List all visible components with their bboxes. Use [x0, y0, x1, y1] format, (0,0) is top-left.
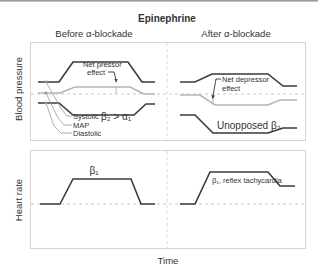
- heart-rate-panel: [31, 151, 306, 249]
- column-header-after: After α-blockade: [201, 28, 270, 39]
- column-header-before: Before α-blockade: [55, 28, 132, 39]
- label-beta1: β₁: [89, 165, 99, 176]
- leader-diastolic: [46, 103, 72, 133]
- label-unopposed-beta2: Unopposed β₂: [217, 120, 281, 131]
- legend-systolic: Systolic: [73, 112, 99, 121]
- map-line-before: [38, 87, 155, 94]
- leader-map: [46, 93, 72, 125]
- epinephrine-diagram: Epinephrine Before α-blockade After α-bl…: [0, 0, 318, 278]
- label-beta1-reflex-tachycardia: β₁, reflex tachycardia: [212, 176, 283, 185]
- net-pressor-arrowhead-icon: [115, 79, 118, 83]
- heart-rate-line-before: [40, 179, 155, 204]
- legend-diastolic: Diastolic: [73, 129, 102, 138]
- leader-dot-map: [45, 92, 48, 95]
- net-pressor-arrow: [108, 72, 116, 80]
- label-beta2-gt-alpha1: β₂ > α₁: [101, 111, 132, 122]
- leader-dot-diastolic: [45, 102, 48, 105]
- label-net-depressor-line1: Net depressor: [222, 75, 270, 84]
- leader-dot-systolic: [45, 81, 48, 84]
- x-label-time: Time: [158, 255, 179, 266]
- label-net-pressor-line2: effect: [87, 68, 106, 77]
- y-label-heart-rate: Heart rate: [13, 179, 24, 221]
- y-label-blood-pressure: Blood pressure: [13, 57, 24, 121]
- map-line-after: [180, 95, 297, 105]
- net-depressor-arrowhead-icon: [212, 95, 215, 100]
- label-net-depressor-line2: effect: [222, 84, 241, 93]
- diagram-title: Epinephrine: [138, 13, 196, 24]
- net-depressor-arrow: [213, 79, 221, 96]
